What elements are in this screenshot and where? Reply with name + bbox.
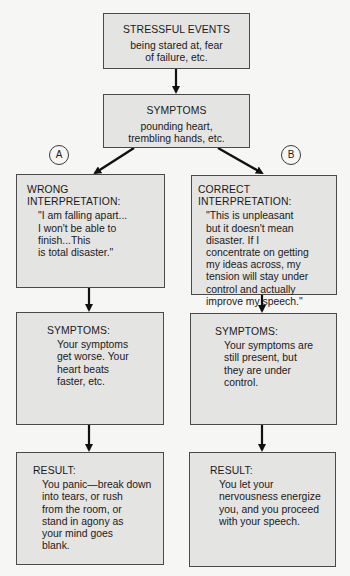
panic-result-title: RESULT:	[17, 453, 163, 477]
wrong-interpretation-title: WRONG INTERPRETATION:	[17, 175, 164, 208]
panic-result-text: You panic—break down into tears, or rush…	[17, 479, 163, 552]
panic-result-box: RESULT: You panic—break down into tears,…	[16, 452, 164, 565]
arrow-to-correct-interpretation	[218, 148, 262, 173]
stressful-events-box: STRESSFUL EVENTS being stared at, fear o…	[103, 13, 250, 69]
worse-symptoms-text: Your symptoms get worse. Your heart beat…	[17, 339, 163, 388]
branch-b-marker: B	[281, 145, 301, 165]
wrong-interpretation-box: WRONG INTERPRETATION: "I am falling apar…	[16, 174, 165, 288]
worse-symptoms-title: SYMPTOMS:	[17, 313, 163, 337]
stressful-events-title: STRESSFUL EVENTS	[104, 24, 249, 36]
flowchart-canvas: STRESSFUL EVENTS being stared at, fear o…	[0, 0, 350, 576]
initial-symptoms-text: pounding heart, trembling hands, etc.	[104, 121, 249, 145]
arrow-to-wrong-interpretation	[95, 148, 134, 173]
initial-symptoms-title: SYMPTOMS	[104, 105, 249, 117]
stressful-events-text: being stared at, fear of failure, etc.	[104, 40, 249, 64]
proceed-result-box: RESULT: You let your nervousness energiz…	[189, 452, 336, 567]
controlled-symptoms-box: SYMPTOMS: Your symptoms are still presen…	[190, 313, 337, 425]
correct-interpretation-title: CORRECT INTERPRETATION:	[192, 176, 336, 208]
correct-interpretation-box: CORRECT INTERPRETATION: "This is unpleas…	[191, 175, 337, 295]
controlled-symptoms-title: SYMPTOMS:	[191, 314, 336, 338]
proceed-result-title: RESULT:	[190, 453, 335, 477]
worse-symptoms-box: SYMPTOMS: Your symptoms get worse. Your …	[16, 312, 164, 425]
initial-symptoms-box: SYMPTOMS pounding heart, trembling hands…	[103, 94, 250, 148]
correct-interpretation-text: "This is unpleasant but it doesn't mean …	[192, 210, 336, 308]
branch-a-marker: A	[49, 145, 69, 165]
wrong-interpretation-text: "I am falling apart... I won't be able t…	[17, 210, 164, 259]
proceed-result-text: You let your nervousness energize you, a…	[190, 479, 335, 528]
controlled-symptoms-text: Your symptoms are still present, but the…	[191, 340, 336, 389]
